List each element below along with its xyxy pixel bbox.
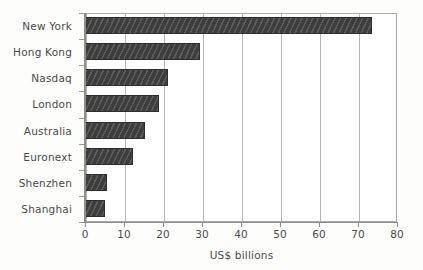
x-axis-tick-label: 20 [156,228,169,240]
y-axis-tick [79,222,84,223]
x-axis-tick-label: 0 [82,228,89,240]
x-axis-title-text: US$ billions [150,249,274,261]
y-axis-tick-label: Hong Kong [13,46,72,58]
x-axis-tick [85,223,86,227]
y-label-band: London [0,91,79,117]
y-axis-tick-label: Shanghai [21,203,72,215]
x-axis-tick [202,223,203,227]
y-axis-line [84,13,86,223]
y-axis-tick-label: New York [22,20,72,32]
bar-band [85,65,397,91]
y-axis-tick-label: London [32,98,72,110]
bar-band [85,91,397,117]
bar-london [85,95,159,112]
bar-nasdaq [85,69,168,86]
y-label-band: Euronext [0,144,79,170]
y-axis-tick [79,65,84,66]
bar-band [85,13,397,39]
y-label-band: New York [0,13,79,39]
y-axis-tick-label: Australia [24,125,72,137]
x-axis-tick [319,223,320,227]
x-axis-tick [358,223,359,227]
x-axis-tick-label: 60 [312,228,325,240]
y-axis-tick [79,144,84,145]
bar-euronext [85,148,133,165]
y-label-band: Hong Kong [0,39,79,65]
y-label-band: Nasdaq [0,65,79,91]
x-axis-tick-label: 50 [273,228,286,240]
bar-shanghai [85,200,105,217]
bar-new-york [85,17,372,34]
bar-chart: New York Hong Kong Nasdaq London Austral… [0,0,423,270]
bar-band [85,196,397,222]
bar-shenzhen [85,174,107,191]
y-axis-tick-label: Euronext [23,151,72,163]
bar-band [85,170,397,196]
x-axis-tick-label: 10 [117,228,130,240]
x-axis-title: US$ billions [0,249,423,261]
bar-australia [85,122,145,139]
bar-band [85,118,397,144]
bars-layer [85,13,397,222]
bar-band [85,39,397,65]
y-axis-tick [79,118,84,119]
y-axis-tick-label: Shenzhen [19,177,72,189]
y-label-band: Shanghai [0,196,79,222]
x-axis-tick [397,223,398,227]
x-axis-tick-label: 70 [351,228,364,240]
x-axis-tick-label: 80 [390,228,403,240]
y-axis-tick [79,13,84,14]
x-axis-tick [163,223,164,227]
bar-band [85,144,397,170]
y-axis-tick [79,91,84,92]
x-axis-tick-label: 30 [195,228,208,240]
y-axis-tick [79,196,84,197]
y-axis-tick [79,39,84,40]
x-axis-tick [280,223,281,227]
y-label-band: Shenzhen [0,170,79,196]
y-axis-tick [79,170,84,171]
y-label-band: Australia [0,118,79,144]
x-axis-tick-label: 40 [234,228,247,240]
x-axis-tick [124,223,125,227]
y-axis-labels: New York Hong Kong Nasdaq London Austral… [0,13,79,222]
x-axis-tick [241,223,242,227]
bar-hong-kong [85,43,200,60]
y-axis-tick-label: Nasdaq [31,72,72,84]
